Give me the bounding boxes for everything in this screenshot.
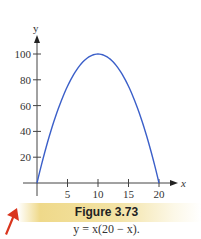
x-tick-label: 10 — [93, 188, 105, 200]
x-tick-label: 15 — [123, 188, 135, 200]
parabola-curve — [37, 54, 159, 183]
y-axis-arrow-icon — [34, 35, 40, 43]
y-tick-label: 40 — [20, 125, 32, 137]
x-tick-label: 20 — [154, 188, 166, 200]
parabola-chart: x y 5101520 20406080100 — [0, 0, 201, 200]
y-tick-label: 60 — [20, 100, 32, 112]
y-tick-label: 100 — [15, 48, 32, 60]
y-axis-label: y — [33, 22, 39, 34]
pointer-arrow-icon — [4, 208, 20, 236]
figure-label: Figure 3.73 — [0, 205, 201, 219]
x-tick-label: 5 — [65, 188, 71, 200]
y-tick-label: 20 — [20, 151, 32, 163]
x-axis-label: x — [180, 177, 186, 189]
x-ticks: 5101520 — [65, 179, 165, 200]
figure-formula: y = x(20 − x). — [0, 222, 201, 237]
x-axis-arrow-icon — [170, 180, 178, 186]
y-tick-label: 80 — [20, 74, 32, 86]
axes: x y — [23, 22, 186, 196]
